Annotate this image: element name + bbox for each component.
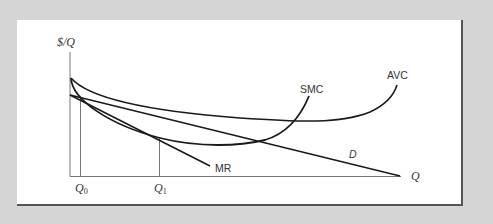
x-axis-label: Q xyxy=(411,169,420,183)
smc-curve xyxy=(71,78,309,145)
demand-curve xyxy=(70,95,400,176)
q0-label: Q0 xyxy=(75,181,88,196)
avc-curve xyxy=(71,78,397,121)
mr-label: MR xyxy=(215,162,232,174)
avc-label: AVC xyxy=(387,69,408,81)
q1-label: Q1 xyxy=(154,181,167,196)
d-label: D xyxy=(349,148,357,160)
cost-revenue-diagram: $/Q Q Q0 Q1 SMC AVC MR D xyxy=(0,0,493,224)
y-axis-label: $/Q xyxy=(57,35,75,49)
smc-label: SMC xyxy=(300,83,324,95)
